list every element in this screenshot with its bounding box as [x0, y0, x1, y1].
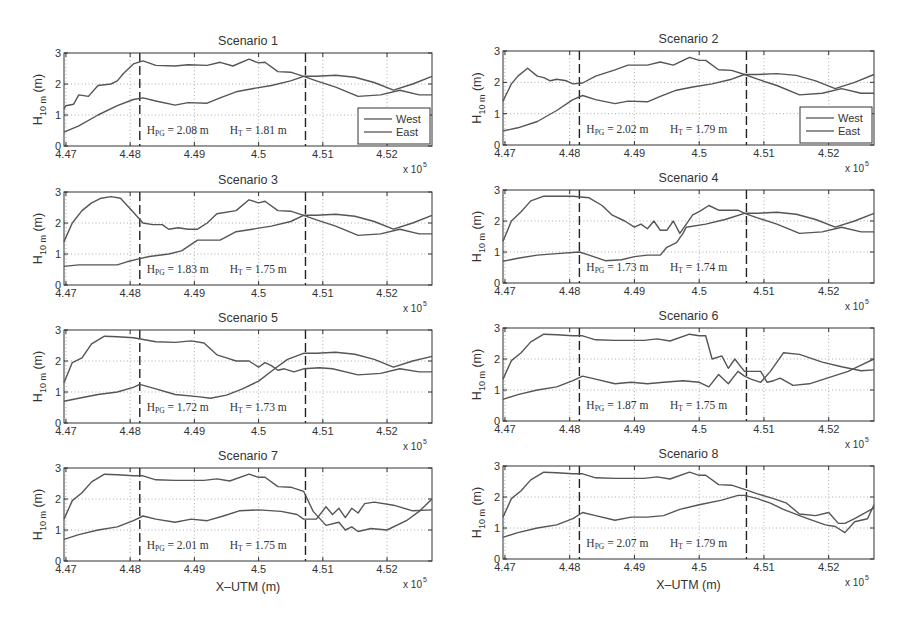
y-tick-label: 0	[494, 277, 500, 289]
x-tick-label: 4.5	[692, 561, 707, 573]
x-multiplier-exponent: 5	[865, 574, 869, 581]
ht-annotation: HT = 1.75 m	[670, 399, 727, 413]
ht-annotation: HT = 1.74 m	[670, 261, 727, 275]
y-tick-label: 2	[494, 76, 500, 88]
x-tick-label: 4.51	[753, 423, 774, 435]
x-multiplier-exponent: 5	[423, 576, 427, 583]
subplot-8: Scenario 84.474.484.494.54.514.520123x 1…	[470, 447, 874, 592]
subplot-title: Scenario 1	[218, 34, 278, 48]
hpg-annotation: HPG = 1.73 m	[586, 261, 648, 275]
y-axis-label: H10 m (m)	[31, 489, 48, 540]
x-tick-label: 4.52	[376, 148, 397, 160]
legend-label-east: East	[838, 125, 860, 137]
y-tick-label: 1	[494, 246, 500, 258]
y-tick-label: 2	[55, 355, 61, 367]
x-multiplier: x 10	[845, 301, 864, 312]
x-tick-label: 4.51	[753, 561, 774, 573]
y-tick-label: 0	[494, 553, 500, 565]
x-tick-label: 4.49	[624, 285, 645, 297]
y-axis-label: H10 m (m)	[31, 351, 48, 402]
x-tick-label: 4.49	[624, 561, 645, 573]
series-line-west	[64, 336, 432, 383]
subplot-title: Scenario 6	[659, 309, 719, 323]
x-tick-label: 4.48	[119, 425, 140, 437]
x-multiplier: x 10	[845, 163, 864, 174]
x-axis-label: X–UTM (m)	[656, 578, 721, 592]
ht-annotation: HT = 1.79 m	[670, 123, 727, 137]
y-tick-label: 2	[55, 78, 61, 90]
subplot-title: Scenario 8	[659, 447, 719, 461]
y-tick-label: 0	[494, 415, 500, 427]
y-tick-label: 3	[55, 462, 61, 474]
x-multiplier: x 10	[403, 164, 422, 175]
subplot-6: Scenario 64.474.484.494.54.514.520123x 1…	[470, 309, 874, 450]
y-axis-label: H10 m (m)	[31, 213, 48, 264]
x-tick-label: 4.52	[818, 285, 839, 297]
x-tick-label: 4.49	[624, 423, 645, 435]
legend-label-west: West	[396, 113, 421, 125]
series-line-west	[503, 196, 874, 241]
subplot-1: Scenario 14.474.484.494.54.514.520123x 1…	[31, 34, 432, 175]
y-tick-label: 1	[494, 522, 500, 534]
subplot-title: Scenario 4	[659, 171, 719, 185]
series-line-west	[503, 57, 874, 101]
x-multiplier: x 10	[845, 577, 864, 588]
x-multiplier-exponent: 5	[865, 436, 869, 443]
y-tick-label: 3	[494, 45, 500, 57]
y-axis-label: H10 m (m)	[470, 211, 487, 262]
series-line-east	[64, 502, 432, 539]
legend: WestEast	[800, 107, 872, 143]
subplot-title: Scenario 5	[218, 311, 278, 325]
legend-label-east: East	[396, 126, 418, 138]
hpg-annotation: HPG = 2.02 m	[586, 123, 648, 137]
ht-annotation: HT = 1.81 m	[230, 124, 287, 138]
y-tick-label: 1	[494, 108, 500, 120]
y-tick-label: 1	[55, 248, 61, 260]
x-multiplier: x 10	[403, 441, 422, 452]
series-line-west	[503, 334, 874, 385]
ht-annotation: HT = 1.73 m	[230, 401, 287, 415]
x-multiplier: x 10	[403, 303, 422, 314]
y-tick-label: 3	[55, 186, 61, 198]
y-tick-label: 1	[55, 524, 61, 536]
y-tick-label: 0	[55, 140, 61, 152]
hpg-annotation: HPG = 2.08 m	[147, 124, 209, 138]
x-tick-label: 4.5	[692, 147, 707, 159]
subplot-2: Scenario 24.474.484.494.54.514.520123x 1…	[470, 32, 874, 174]
y-tick-label: 0	[55, 279, 61, 291]
x-tick-label: 4.52	[818, 423, 839, 435]
x-tick-label: 4.5	[251, 148, 266, 160]
series-line-east	[64, 214, 432, 266]
x-multiplier-exponent: 5	[865, 298, 869, 305]
x-multiplier-exponent: 5	[423, 300, 427, 307]
subplot-4: Scenario 44.474.484.494.54.514.520123x 1…	[470, 171, 874, 312]
subplot-3: Scenario 34.474.484.494.54.514.520123x 1…	[31, 173, 432, 314]
x-tick-label: 4.51	[312, 148, 333, 160]
y-tick-label: 2	[55, 217, 61, 229]
x-tick-label: 4.5	[251, 287, 266, 299]
x-tick-label: 4.49	[184, 563, 205, 575]
x-tick-label: 4.52	[818, 561, 839, 573]
hpg-annotation: HPG = 2.01 m	[147, 539, 209, 553]
x-tick-label: 4.49	[184, 287, 205, 299]
x-tick-label: 4.52	[376, 563, 397, 575]
y-tick-label: 0	[494, 139, 500, 151]
y-tick-label: 3	[55, 324, 61, 336]
y-tick-label: 1	[55, 109, 61, 121]
y-tick-label: 2	[494, 215, 500, 227]
x-tick-label: 4.5	[251, 425, 266, 437]
legend-label-west: West	[838, 112, 863, 124]
x-tick-label: 4.48	[559, 423, 580, 435]
x-tick-label: 4.5	[251, 563, 266, 575]
x-tick-label: 4.48	[119, 563, 140, 575]
subplot-title: Scenario 3	[218, 173, 278, 187]
x-axis-label: X–UTM (m)	[216, 580, 281, 594]
x-tick-label: 4.51	[312, 287, 333, 299]
x-multiplier-exponent: 5	[865, 160, 869, 167]
x-tick-label: 4.52	[376, 287, 397, 299]
x-tick-label: 4.52	[376, 425, 397, 437]
y-axis-label: H10 m (m)	[470, 487, 487, 538]
subplot-7: Scenario 74.474.484.494.54.514.520123x 1…	[31, 449, 432, 594]
y-tick-label: 0	[55, 555, 61, 567]
hpg-annotation: HPG = 1.87 m	[586, 399, 648, 413]
